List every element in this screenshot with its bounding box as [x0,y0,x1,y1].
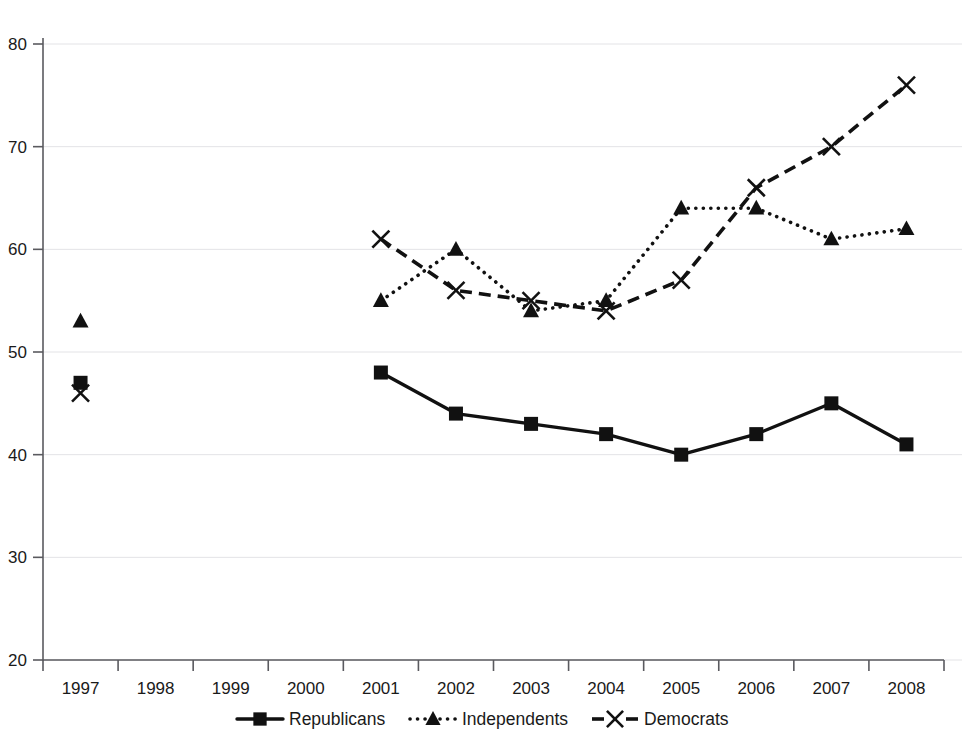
x-tick-label: 2008 [888,679,926,698]
data-point-square [599,427,613,441]
legend-label: Democrats [644,709,729,729]
chart-legend: RepublicansIndependentsDemocrats [237,709,729,729]
chart-container: 20304050607080 1997199819992000200120022… [0,0,962,755]
x-tick-label: 2005 [662,679,700,698]
y-tick-label: 50 [8,343,27,362]
x-tick-label: 2003 [512,679,550,698]
y-tick-label: 60 [8,240,27,259]
x-tick-label: 2007 [812,679,850,698]
legend-label: Independents [462,709,568,729]
y-tick-label: 70 [8,138,27,157]
data-point-square [749,427,763,441]
data-point-square [374,366,388,380]
line-chart: 20304050607080 1997199819992000200120022… [0,0,962,755]
chart-background [0,0,962,755]
x-tick-label: 2002 [437,679,475,698]
data-point-square [824,396,838,410]
x-tick-label: 2000 [287,679,325,698]
y-tick-label: 80 [8,35,27,54]
y-tick-label: 20 [8,651,27,670]
legend-label: Republicans [289,709,386,729]
data-point-square [524,417,538,431]
data-point-square [899,437,913,451]
data-point-square [674,448,688,462]
data-point-square [253,712,266,725]
y-tick-label: 40 [8,446,27,465]
x-tick-label: 1998 [137,679,175,698]
data-point-square [449,407,463,421]
x-tick-label: 2001 [362,679,400,698]
x-tick-label: 2006 [737,679,775,698]
x-tick-label: 1997 [62,679,100,698]
x-tick-label: 1999 [212,679,250,698]
y-tick-label: 30 [8,548,27,567]
x-tick-label: 2004 [587,679,625,698]
